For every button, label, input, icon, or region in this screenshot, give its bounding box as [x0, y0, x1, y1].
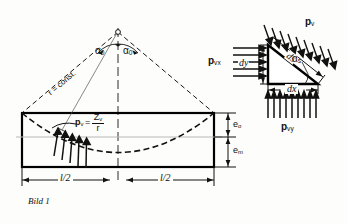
- span-right-label: l/2: [158, 173, 173, 183]
- alpha-s-label: αs: [292, 54, 301, 65]
- technical-figure: [0, 0, 348, 224]
- figure-caption: Bild 1: [28, 196, 50, 206]
- ecc-eo-label: eo: [233, 120, 241, 130]
- dx-label: dx: [285, 84, 298, 94]
- pvy-label: pvy: [281, 122, 294, 133]
- arrow-group-brace: [52, 123, 76, 128]
- angle-alpha0-right-label: α0: [123, 46, 132, 57]
- pv-formula-label: pv = Zv r: [75, 113, 104, 133]
- ecc-em-label: em: [233, 146, 243, 156]
- dy-label: dy: [238, 58, 249, 68]
- pvx-label: pvx: [208, 56, 221, 67]
- angle-alpha0-left-label: α0: [95, 46, 104, 57]
- span-left-label: l/2: [58, 173, 73, 183]
- pv-label: pv: [305, 17, 314, 28]
- deviation-force-arrows: [54, 128, 90, 168]
- pvy-arrows: [265, 91, 318, 118]
